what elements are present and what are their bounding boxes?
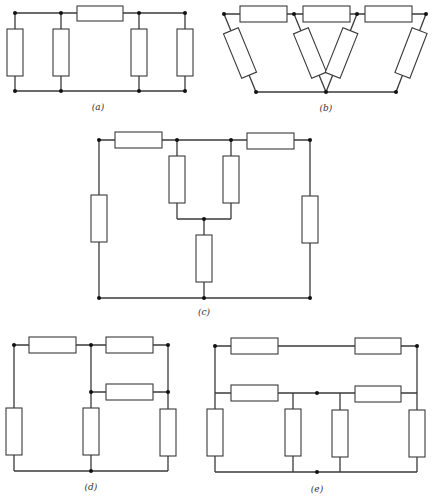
resistor bbox=[409, 410, 425, 457]
circuit-label-e: (e) bbox=[311, 484, 324, 494]
resistor bbox=[247, 133, 294, 149]
resistor bbox=[106, 384, 153, 400]
resistor bbox=[355, 386, 401, 402]
node bbox=[137, 11, 141, 15]
node bbox=[324, 90, 328, 94]
node bbox=[355, 12, 359, 16]
resistor bbox=[285, 409, 301, 456]
resistor bbox=[196, 235, 212, 282]
resistor bbox=[29, 337, 76, 353]
circuit-label-d: (d) bbox=[85, 482, 98, 492]
resistor bbox=[231, 385, 278, 401]
resistor bbox=[131, 29, 147, 76]
circuit-d: (d) bbox=[6, 337, 176, 492]
resistor bbox=[160, 409, 176, 456]
node bbox=[394, 90, 398, 94]
node bbox=[97, 138, 101, 142]
resistor bbox=[53, 29, 69, 76]
node bbox=[415, 344, 419, 348]
resistor bbox=[231, 338, 278, 354]
node bbox=[89, 469, 93, 473]
resistor bbox=[365, 6, 412, 22]
resistor bbox=[6, 408, 22, 455]
node bbox=[59, 89, 63, 93]
node bbox=[254, 90, 258, 94]
resistor bbox=[303, 6, 350, 22]
node bbox=[424, 12, 428, 16]
circuit-label-a: (a) bbox=[92, 102, 105, 112]
circuit-a: (a) bbox=[7, 6, 193, 112]
resistor bbox=[355, 338, 401, 354]
resistor bbox=[223, 28, 256, 78]
node bbox=[222, 12, 226, 16]
resistor bbox=[240, 6, 287, 22]
node bbox=[89, 343, 93, 347]
resistor bbox=[325, 28, 358, 79]
resistor bbox=[115, 132, 162, 148]
node bbox=[59, 11, 63, 15]
circuit-label-c: (c) bbox=[198, 307, 211, 317]
resistor bbox=[207, 409, 223, 456]
node bbox=[183, 11, 187, 15]
node bbox=[175, 138, 179, 142]
circuit-b: (b) bbox=[222, 6, 428, 113]
node bbox=[315, 470, 319, 474]
resistor bbox=[83, 408, 99, 455]
node bbox=[166, 343, 170, 347]
resistor bbox=[223, 156, 239, 203]
node bbox=[202, 217, 206, 221]
node bbox=[202, 296, 206, 300]
resistor bbox=[395, 28, 427, 79]
resistor bbox=[7, 29, 23, 76]
node bbox=[183, 89, 187, 93]
node bbox=[308, 138, 312, 142]
resistor bbox=[169, 156, 185, 203]
circuit-e: (e) bbox=[207, 338, 425, 494]
resistor bbox=[293, 28, 326, 78]
resistor bbox=[77, 6, 123, 21]
node bbox=[308, 296, 312, 300]
node bbox=[97, 296, 101, 300]
resistor bbox=[106, 337, 153, 353]
node bbox=[229, 138, 233, 142]
resistor bbox=[177, 29, 193, 76]
circuit-c: (c) bbox=[91, 132, 318, 317]
node bbox=[166, 390, 170, 394]
node bbox=[12, 343, 16, 347]
node bbox=[292, 12, 296, 16]
node bbox=[137, 89, 141, 93]
node bbox=[89, 390, 93, 394]
resistor bbox=[302, 196, 318, 243]
circuit-figure: (a) (b) bbox=[0, 0, 432, 502]
circuit-label-b: (b) bbox=[320, 103, 333, 113]
resistor bbox=[91, 195, 107, 242]
node bbox=[315, 391, 319, 395]
resistor bbox=[332, 410, 348, 457]
node bbox=[213, 344, 217, 348]
node bbox=[13, 11, 17, 15]
node bbox=[13, 89, 17, 93]
